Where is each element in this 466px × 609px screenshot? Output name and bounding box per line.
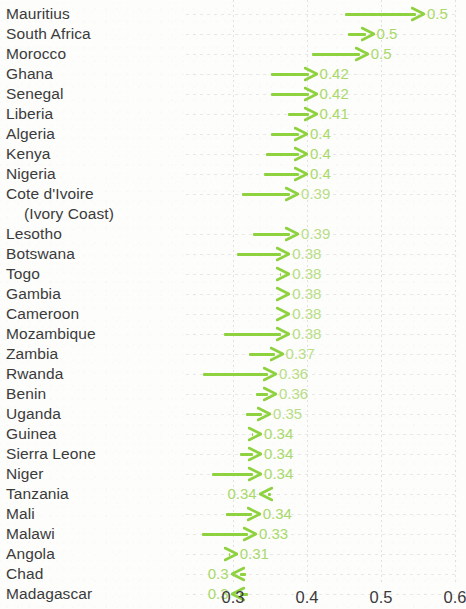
- value-label: 0.5: [427, 4, 448, 24]
- chart-row: Ghana0.42: [0, 64, 459, 84]
- country-label: Malawi: [6, 524, 55, 544]
- country-label: Gambia: [6, 284, 61, 304]
- chart-row: Botswana0.38: [0, 244, 459, 264]
- country-label: Morocco: [6, 44, 66, 64]
- value-label: 0.37: [286, 344, 315, 364]
- country-label: Senegal: [6, 84, 64, 104]
- country-label: Guinea: [6, 424, 57, 444]
- row-gridline: [186, 34, 459, 35]
- value-label: 0.33: [259, 524, 288, 544]
- value-label: 0.4: [310, 144, 331, 164]
- arrow-head: [285, 186, 299, 202]
- arrow-shaft: [203, 373, 268, 376]
- arrow-head: [276, 286, 290, 302]
- chart-row: Guinea0.34: [0, 424, 459, 444]
- country-label: Botswana: [6, 244, 75, 264]
- arrow-shaft: [212, 473, 253, 476]
- value-label: 0.38: [292, 244, 321, 264]
- arrow-shaft: [202, 533, 248, 536]
- row-gridline: [186, 294, 459, 295]
- chart-row: Mali0.34: [0, 504, 459, 524]
- arrow-head: [304, 66, 318, 82]
- country-label: Mozambique: [6, 324, 96, 344]
- arrow-shaft: [224, 333, 281, 336]
- country-label: Kenya: [6, 144, 50, 164]
- country-label: Mali: [6, 504, 35, 524]
- value-label: 0.34: [227, 484, 256, 504]
- value-label: 0.36: [279, 364, 308, 384]
- arrow-head: [285, 226, 299, 242]
- country-label: Rwanda: [6, 364, 63, 384]
- arrow-shaft: [345, 13, 415, 16]
- arrow-shaft: [237, 253, 281, 256]
- chart-row: Uganda0.35: [0, 404, 459, 424]
- country-label: Angola: [6, 544, 55, 564]
- row-gridline: [186, 394, 459, 395]
- value-label: 0.34: [263, 504, 292, 524]
- arrow-head: [294, 146, 308, 162]
- arrow-head: [304, 106, 318, 122]
- country-label: South Africa: [6, 24, 91, 44]
- arrow-head: [263, 386, 277, 402]
- row-gridline: [186, 414, 459, 415]
- chart-row: Tanzania0.34: [0, 484, 459, 504]
- country-label: Lesotho: [6, 224, 62, 244]
- chart-row: Chad0.3: [0, 564, 459, 584]
- arrow-head: [248, 446, 262, 462]
- country-label: Niger: [6, 464, 44, 484]
- chart-row: South Africa0.5: [0, 24, 459, 44]
- chart-row: Morocco0.5: [0, 44, 459, 64]
- chart-row: Malawi0.33: [0, 524, 459, 544]
- arrow-head: [276, 306, 290, 322]
- x-tick-0.4: 0.4: [296, 585, 319, 609]
- x-axis: 0.30.40.50.6: [0, 585, 459, 609]
- row-gridline: [186, 254, 459, 255]
- chart-row: Zambia0.37: [0, 344, 459, 364]
- country-label: Zambia: [6, 344, 58, 364]
- arrow-head: [224, 546, 238, 562]
- value-label: 0.34: [264, 444, 293, 464]
- country-label: Chad: [6, 564, 43, 584]
- country-label: Algeria: [6, 124, 55, 144]
- country-label: Uganda: [6, 404, 61, 424]
- value-label: 0.31: [240, 544, 269, 564]
- arrow-head: [270, 346, 284, 362]
- value-label: 0.41: [320, 104, 349, 124]
- value-label: 0.39: [301, 224, 330, 244]
- row-gridline: [186, 274, 459, 275]
- country-label-line2: (Ivory Coast): [24, 204, 114, 224]
- value-label: 0.42: [320, 64, 349, 84]
- value-label: 0.4: [310, 164, 331, 184]
- arrow-head: [361, 26, 375, 42]
- value-label: 0.36: [279, 384, 308, 404]
- value-label: 0.42: [320, 84, 349, 104]
- arrow-head: [276, 326, 290, 342]
- country-label: Cameroon: [6, 304, 79, 324]
- arrow-head: [355, 46, 369, 62]
- country-label: Mauritius: [6, 4, 70, 24]
- arrow-head: [276, 266, 290, 282]
- arrow-head: [304, 86, 318, 102]
- value-label: 0.38: [292, 324, 321, 344]
- chart-row: Rwanda0.36: [0, 364, 459, 384]
- chart-row: Cote d'Ivoire0.39: [0, 184, 459, 204]
- chart-row: Lesotho0.39: [0, 224, 459, 244]
- country-label: Ghana: [6, 64, 53, 84]
- chart-row: Nigeria0.4: [0, 164, 459, 184]
- chart-row: Algeria0.4: [0, 124, 459, 144]
- arrow-head: [243, 526, 257, 542]
- value-label: 0.34: [264, 424, 293, 444]
- arrow-head: [276, 246, 290, 262]
- value-label: 0.5: [371, 44, 392, 64]
- country-label: Sierra Leone: [6, 444, 96, 464]
- country-label: Benin: [6, 384, 46, 404]
- value-label: 0.35: [273, 404, 302, 424]
- country-label: Tanzania: [6, 484, 69, 504]
- arrow-head: [248, 426, 262, 442]
- chart-row: Liberia0.41: [0, 104, 459, 124]
- arrow-head: [257, 406, 271, 422]
- chart-row: Togo0.38: [0, 264, 459, 284]
- country-label: Nigeria: [6, 164, 56, 184]
- chart-row: Niger0.34: [0, 464, 459, 484]
